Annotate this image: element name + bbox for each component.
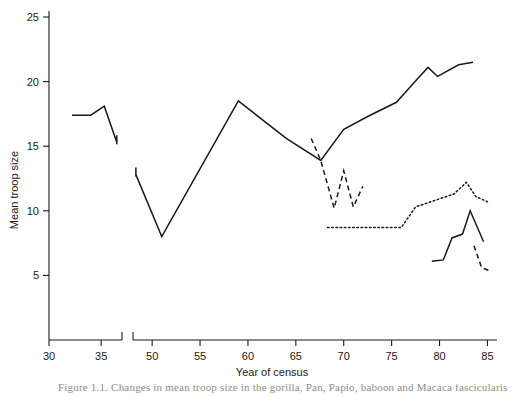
- series-early-census-solid: [72, 106, 117, 142]
- x-tick-label: 75: [386, 350, 398, 362]
- y-tick-label: 20: [27, 76, 39, 88]
- x-tick-label: 85: [481, 350, 493, 362]
- series-dashed-census-mid: [311, 138, 363, 208]
- series-solid-census-lower-right: [432, 211, 484, 261]
- y-axis: 510152025: [27, 11, 49, 340]
- figure-container: 510152025 30355055606570758085 Mean troo…: [0, 0, 519, 397]
- chart-canvas: 510152025 30355055606570758085 Mean troo…: [0, 0, 519, 397]
- x-tick-label: 35: [95, 350, 107, 362]
- figure-caption-strip: Figure 1.1. Changes in mean troop size i…: [0, 384, 519, 397]
- data-series-group: [72, 62, 488, 270]
- y-axis-title: Mean troop size: [8, 151, 20, 229]
- x-tick-label: 60: [242, 350, 254, 362]
- x-tick-label: 55: [194, 350, 206, 362]
- x-tick-label: 50: [146, 350, 158, 362]
- y-tick-label: 15: [27, 140, 39, 152]
- y-tick-label: 25: [27, 11, 39, 23]
- figure-caption: Figure 1.1. Changes in mean troop size i…: [58, 384, 508, 393]
- y-tick-label: 5: [33, 269, 39, 281]
- y-tick-label: 10: [27, 205, 39, 217]
- x-tick-label: 65: [290, 350, 302, 362]
- series-dotted-census-low: [327, 182, 487, 227]
- x-axis-title: Year of census: [236, 366, 309, 378]
- x-tick-label: 70: [338, 350, 350, 362]
- x-tick-label: 30: [43, 350, 55, 362]
- x-tick-label: 80: [433, 350, 445, 362]
- x-axis: 30355055606570758085: [43, 332, 497, 362]
- series-dashed-census-bottom-right: [474, 246, 488, 271]
- series-main-census-solid: [136, 62, 473, 236]
